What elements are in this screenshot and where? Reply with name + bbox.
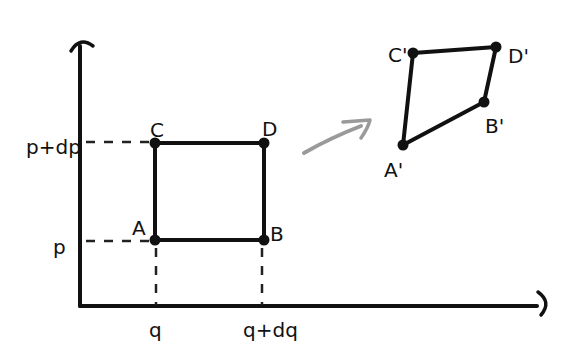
mapping-arrow [304, 120, 370, 153]
square-abdc [155, 143, 264, 240]
point-b-prime [479, 97, 490, 108]
horizontal-axis-arrowhead-icon [538, 292, 546, 315]
label-d: D [262, 117, 277, 141]
label-q: q [149, 318, 162, 342]
label-p: p [53, 235, 66, 259]
label-p-plus-dp: p+dp [26, 135, 81, 159]
label-c: C [150, 118, 164, 142]
point-a [150, 235, 161, 246]
label-c-prime: C' [388, 43, 407, 67]
mapping-arrow-shaft [304, 126, 361, 153]
point-c-prime [408, 48, 419, 59]
label-a: A [132, 216, 146, 240]
point-a-prime [398, 140, 409, 151]
phase-space-diagram: p+dp p q q+dq A B C D A' B' C' D' [0, 0, 581, 364]
labels: p+dp p q q+dq A B C D A' B' C' D' [26, 43, 529, 342]
axes [71, 42, 546, 315]
label-d-prime: D' [508, 44, 529, 68]
label-q-plus-dq: q+dq [243, 318, 298, 342]
label-b-prime: B' [485, 114, 504, 138]
label-a-prime: A' [384, 158, 403, 182]
label-b: B [270, 222, 284, 246]
point-b [259, 235, 270, 246]
guide-lines [86, 142, 262, 305]
quadrilateral-a-b-d-c-prime [403, 47, 496, 145]
original-square [150, 138, 270, 246]
point-d-prime [491, 42, 502, 53]
